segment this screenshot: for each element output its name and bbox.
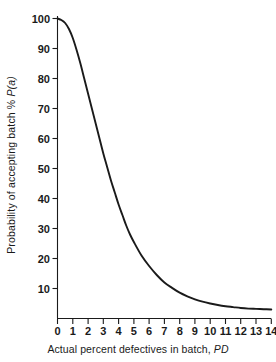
x-tick-label-14: 14 [265,325,276,337]
y-tick-label-90: 90 [38,43,50,55]
x-tick-label-2: 2 [85,325,91,337]
chart-canvas: 100 90 80 70 60 50 40 30 20 10 [0,0,276,362]
x-axis-title-italic: PD [214,343,229,355]
x-tick-label-1: 1 [70,325,76,337]
x-tick-label-3: 3 [100,325,106,337]
y-tick-label-20: 20 [38,253,50,265]
x-axis [57,319,271,325]
y-tick-label-40: 40 [38,193,50,205]
y-tick-label-30: 30 [38,223,50,235]
oc-curve-figure: Probability of accepting batch % P(a) 10… [0,0,276,362]
x-tick-label-9: 9 [192,325,198,337]
y-tick-label-80: 80 [38,73,50,85]
y-tick-labels: 100 90 80 70 60 50 40 30 20 10 [32,13,50,295]
x-tick-label-6: 6 [146,325,152,337]
x-tick-label-5: 5 [131,325,137,337]
y-tick-label-100: 100 [32,13,50,25]
x-tick-labels: 0 1 2 3 4 5 6 7 8 9 10 11 12 13 14 [54,325,276,337]
y-tick-label-70: 70 [38,103,50,115]
y-axis [53,16,58,319]
y-tick-label-10: 10 [38,283,50,295]
x-axis-title-plain: Actual percent defectives in batch, [47,343,213,355]
y-tick-label-60: 60 [38,133,50,145]
x-tick-label-0: 0 [54,325,60,337]
x-tick-label-8: 8 [177,325,183,337]
x-tick-label-7: 7 [161,325,167,337]
y-tick-label-50: 50 [38,163,50,175]
x-tick-label-4: 4 [116,325,123,337]
x-tick-label-10: 10 [204,325,216,337]
x-tick-label-13: 13 [250,325,262,337]
x-tick-label-12: 12 [235,325,247,337]
x-tick-label-11: 11 [220,325,232,337]
x-axis-title: Actual percent defectives in batch, PD [0,343,276,355]
oc-curve-line [58,19,272,310]
